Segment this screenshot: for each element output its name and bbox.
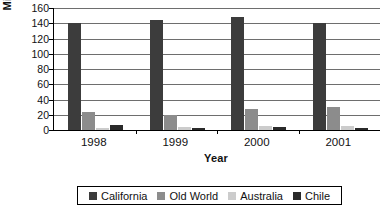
x-axis-tick-mark <box>136 130 137 134</box>
x-axis-tick-mark <box>217 130 218 134</box>
bar <box>178 127 191 130</box>
legend-swatch-icon <box>228 192 236 200</box>
y-axis-tick-label: 40 <box>23 95 49 105</box>
y-axis-tick-label: 100 <box>23 49 49 59</box>
x-axis-title: Year <box>53 152 379 164</box>
y-axis-title: Million Cases <box>0 0 15 34</box>
bar <box>150 20 163 130</box>
bar <box>192 128 205 130</box>
legend-swatch-icon <box>293 192 301 200</box>
bar <box>164 115 177 130</box>
y-axis-tick-label: 20 <box>23 110 49 120</box>
legend-label: Australia <box>240 190 283 202</box>
y-axis-tick-label: 160 <box>23 3 49 13</box>
legend-item[interactable]: Chile <box>293 190 330 202</box>
legend-label: California <box>101 190 147 202</box>
bar <box>259 126 272 130</box>
bar-group <box>299 8 381 130</box>
bar <box>273 127 286 130</box>
x-axis-tick-label: 2000 <box>216 136 298 148</box>
x-axis-tick-label: 1999 <box>135 136 217 148</box>
bar-chart: Million Cases 160140120100806040200 1998… <box>0 0 389 219</box>
plot-container: 160140120100806040200 1998199920002001 Y… <box>19 8 381 146</box>
bar <box>355 128 368 130</box>
x-axis-tick-mark <box>299 130 300 134</box>
bar <box>313 23 326 131</box>
bar-group <box>136 8 218 130</box>
legend-swatch-icon <box>89 192 97 200</box>
legend-label: Old World <box>169 190 218 202</box>
bar <box>231 17 244 130</box>
y-axis-title-container: Million Cases <box>0 0 20 150</box>
y-axis-tick-label: 120 <box>23 34 49 44</box>
bar <box>341 126 354 130</box>
x-axis-tick-labels: 1998199920002001 <box>53 136 379 152</box>
legend-label: Chile <box>305 190 330 202</box>
bar <box>96 128 109 130</box>
bar-group <box>217 8 299 130</box>
y-axis-tick-label: 60 <box>23 79 49 89</box>
x-axis-tick-label: 2001 <box>298 136 380 148</box>
bar-group <box>54 8 136 130</box>
bar <box>82 112 95 130</box>
y-axis-ticks: 160140120100806040200 <box>19 8 49 146</box>
y-axis-tick-label: 80 <box>23 64 49 74</box>
bar <box>68 23 81 131</box>
bar <box>245 109 258 130</box>
legend-item[interactable]: Old World <box>157 190 218 202</box>
legend-item[interactable]: California <box>89 190 147 202</box>
plot-area <box>53 8 380 131</box>
bar <box>110 125 123 130</box>
legend-swatch-icon <box>157 192 165 200</box>
x-axis-tick-label: 1998 <box>53 136 135 148</box>
y-axis-tick-label: 140 <box>23 18 49 28</box>
legend-item[interactable]: Australia <box>228 190 283 202</box>
y-axis-tick-label: 0 <box>23 125 49 135</box>
bar <box>327 107 340 130</box>
chart-legend: CaliforniaOld WorldAustraliaChile <box>77 186 342 205</box>
